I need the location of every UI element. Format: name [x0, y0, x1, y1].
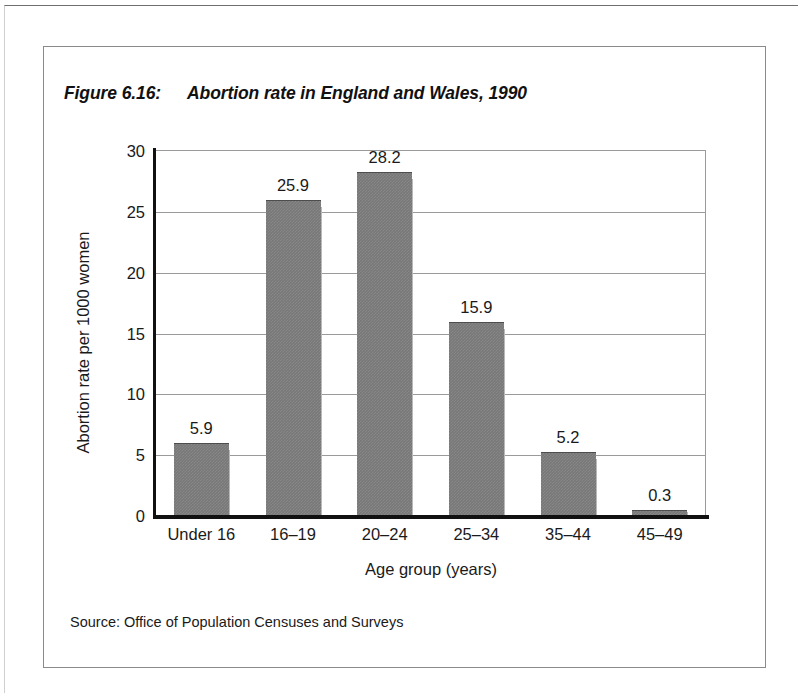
bar-group[interactable]: 5.9	[174, 151, 238, 515]
page-frame: Figure 6.16:Abortion rate in England and…	[4, 5, 798, 693]
x-axis-tick-label: 25–34	[453, 525, 499, 544]
figure-box: Figure 6.16:Abortion rate in England and…	[43, 46, 766, 668]
bar[interactable]	[174, 443, 229, 515]
bar-value-label: 25.9	[277, 176, 309, 195]
bar-group[interactable]: 5.2	[541, 151, 605, 515]
y-axis-tick-label: 0	[136, 507, 145, 526]
bar-group[interactable]: 0.3	[632, 151, 696, 515]
source-note: Source: Office of Population Censuses an…	[70, 614, 403, 630]
y-axis-tick-label: 10	[127, 385, 145, 404]
bar[interactable]	[357, 172, 412, 515]
y-axis-tick-label: 5	[136, 446, 145, 465]
y-axis-title: Abortion rate per 1000 women	[74, 183, 93, 503]
bar-group[interactable]: 15.9	[449, 151, 513, 515]
x-axis-tick-label: Under 16	[167, 525, 235, 544]
y-axis-tick-label: 15	[127, 324, 145, 343]
bar-value-label: 5.9	[190, 419, 213, 438]
x-axis-tick-label: 20–24	[362, 525, 408, 544]
bar-chart: Abortion rate per 1000 women 05101520253…	[44, 47, 765, 667]
bar-value-label: 0.3	[648, 486, 671, 505]
bar-value-label: 5.2	[557, 428, 580, 447]
y-axis-tick-label: 20	[127, 263, 145, 282]
y-axis-line	[153, 148, 156, 518]
bar-value-label: 28.2	[369, 148, 401, 167]
x-axis-tick-label: 35–44	[545, 525, 591, 544]
bar[interactable]	[449, 322, 504, 515]
bar-group[interactable]: 25.9	[266, 151, 330, 515]
bar[interactable]	[541, 452, 596, 515]
x-axis-tick-label: 45–49	[637, 525, 683, 544]
bar-value-label: 15.9	[460, 298, 492, 317]
x-axis-title: Age group (years)	[156, 560, 706, 579]
bar[interactable]	[266, 200, 321, 515]
plot-area: 051015202530 5.925.928.215.95.20.3	[156, 150, 706, 515]
x-axis-tick-label: 16–19	[270, 525, 316, 544]
y-axis-tick-label: 25	[127, 202, 145, 221]
bar-series: 5.925.928.215.95.20.3	[156, 151, 705, 515]
x-axis-line	[153, 515, 709, 519]
bar-group[interactable]: 28.2	[357, 151, 421, 515]
y-axis-tick-label: 30	[127, 142, 145, 161]
